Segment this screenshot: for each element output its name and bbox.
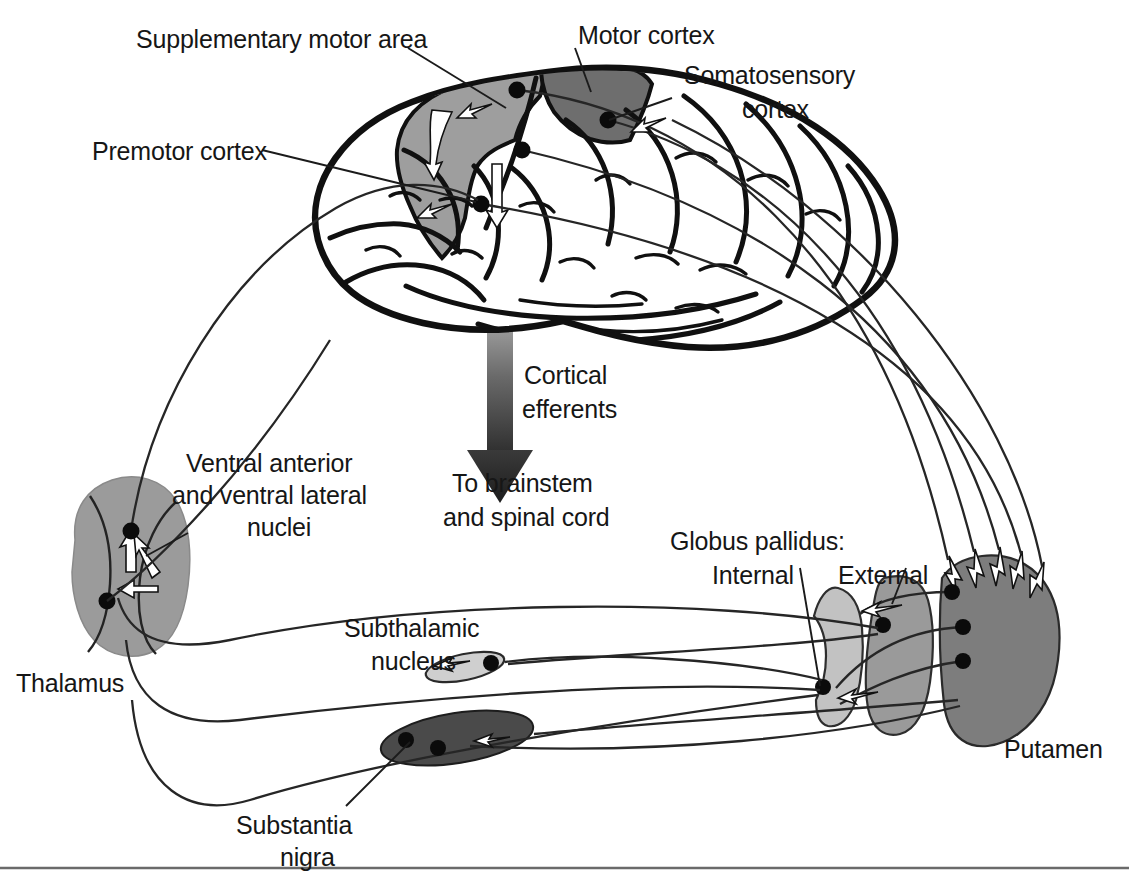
label-somatosensory-cortex-line2: cortex xyxy=(742,95,810,123)
globus-pallidus-internal-structure xyxy=(814,588,863,727)
label-thalamus: Thalamus xyxy=(16,669,124,697)
putamen-structure xyxy=(940,547,1060,746)
label-ventral-nuclei-line1: Ventral anterior xyxy=(186,449,352,477)
label-somatosensory-cortex-line1: Somatosensory xyxy=(684,61,856,89)
label-cortical-efferents-line1: Cortical xyxy=(524,361,607,389)
figure-root: Supplementary motor area Motor cortex So… xyxy=(0,0,1129,880)
label-to-brainstem-line2: and spinal cord xyxy=(443,503,610,531)
label-ventral-nuclei-line2: and ventral lateral xyxy=(172,481,367,509)
label-ventral-nuclei-line3: nuclei xyxy=(247,513,311,541)
globus-pallidus-external-structure xyxy=(866,576,933,735)
label-globus-pallidus-external: External xyxy=(838,561,928,589)
label-putamen: Putamen xyxy=(1004,735,1103,763)
basal-ganglia-diagram: Supplementary motor area Motor cortex So… xyxy=(0,0,1129,880)
label-to-brainstem-line1: To brainstem xyxy=(452,469,593,497)
label-substantia-nigra-line1: Substantia xyxy=(236,811,352,839)
label-subthalamic-nucleus-line1: Subthalamic xyxy=(344,614,479,642)
label-motor-cortex: Motor cortex xyxy=(578,21,715,49)
label-premotor-cortex: Premotor cortex xyxy=(92,137,268,165)
globus-pallidus-external-shape xyxy=(866,576,933,735)
label-globus-pallidus-internal: Internal xyxy=(712,561,794,589)
label-supplementary-motor-area: Supplementary motor area xyxy=(136,25,427,53)
label-subthalamic-nucleus-line2: nucleus xyxy=(371,647,456,675)
label-substantia-nigra-line2: nigra xyxy=(280,843,335,871)
label-cortical-efferents-line2: efferents xyxy=(522,395,617,423)
pallidum-to-thalamus-pathways xyxy=(118,598,878,805)
label-globus-pallidus-heading: Globus pallidus: xyxy=(670,527,845,555)
globus-pallidus-internal-shape xyxy=(814,588,863,727)
